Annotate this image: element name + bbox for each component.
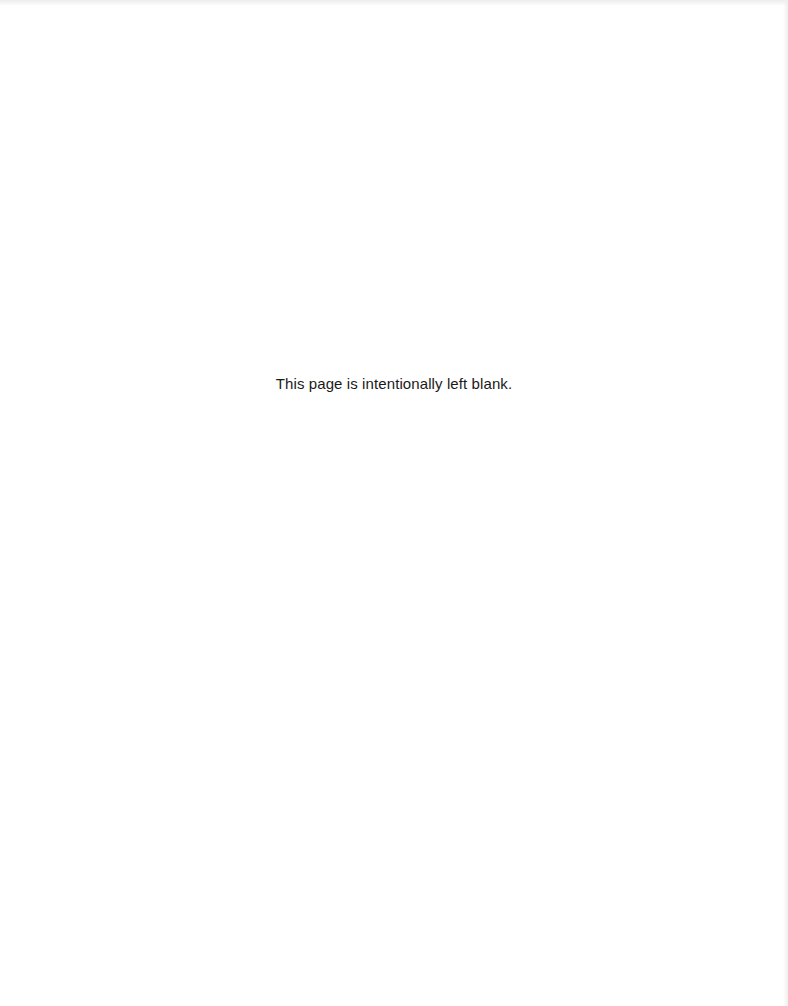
document-page: This page is intentionally left blank. bbox=[0, 0, 788, 1006]
blank-page-notice: This page is intentionally left blank. bbox=[0, 374, 788, 394]
scan-edge-right bbox=[783, 0, 788, 1006]
scan-edge-top bbox=[0, 0, 788, 6]
